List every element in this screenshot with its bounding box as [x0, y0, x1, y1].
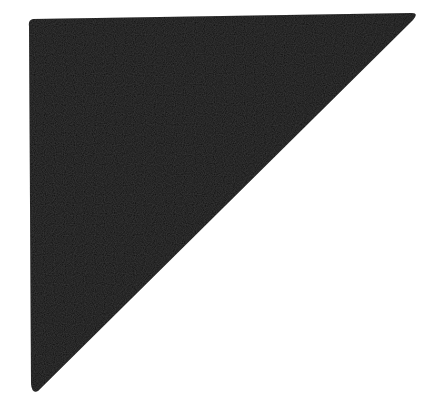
figure-canvas — [0, 0, 440, 406]
triangle-shape — [29, 13, 416, 392]
triangle-figure — [0, 0, 440, 406]
